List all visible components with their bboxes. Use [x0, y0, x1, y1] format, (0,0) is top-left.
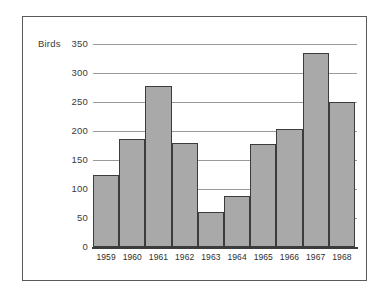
- y-tick-label-150: 150: [58, 154, 88, 165]
- y-tick-label-0: 0: [58, 241, 88, 252]
- y-tick-50-wrap: 50: [52, 212, 88, 224]
- bar-1967: [303, 53, 329, 247]
- y-tick-150-wrap: 150: [52, 154, 88, 166]
- gridline-350: [93, 44, 357, 45]
- bar-1968: [329, 102, 355, 247]
- y-tick-label-300: 300: [58, 67, 88, 78]
- y-tick-label-200: 200: [58, 125, 88, 136]
- x-tick-label-1968: 1968: [326, 252, 358, 262]
- bar-chart: Birds 350 300 250 200 150 100 50 0 19591…: [0, 0, 387, 295]
- bar-1962: [172, 143, 198, 247]
- y-tick-label-100: 100: [58, 183, 88, 194]
- y-tick-0-wrap: 0: [52, 241, 88, 253]
- y-tick-label-50: 50: [58, 212, 88, 223]
- bar-1963: [198, 212, 224, 247]
- y-tick-250-wrap: 250: [52, 96, 88, 108]
- y-tick-100-wrap: 100: [52, 183, 88, 195]
- bar-1960: [119, 139, 145, 247]
- y-tick-300-wrap: 300: [52, 67, 88, 79]
- y-tick-350-wrap: 350: [52, 38, 88, 50]
- y-tick-label-250: 250: [58, 96, 88, 107]
- bar-1965: [250, 144, 276, 247]
- bar-1961: [145, 86, 171, 247]
- x-axis-baseline: [92, 247, 358, 249]
- bar-1966: [276, 129, 302, 247]
- y-tick-200-wrap: 200: [52, 125, 88, 137]
- bar-1964: [224, 196, 250, 247]
- y-tick-label-350: 350: [58, 38, 88, 49]
- bar-1959: [93, 175, 119, 248]
